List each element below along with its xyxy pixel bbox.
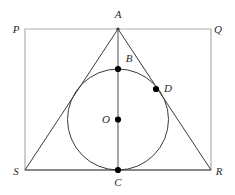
label-r: R	[215, 165, 223, 177]
label-o: O	[102, 113, 110, 125]
point-d-dot	[153, 86, 159, 92]
point-a-dot	[116, 27, 119, 30]
point-c-dot	[115, 167, 121, 173]
label-q: Q	[214, 23, 222, 35]
label-c: C	[114, 176, 122, 188]
label-b: B	[126, 52, 133, 64]
geometry-diagram: P Q R S A B D O C	[0, 0, 235, 195]
label-a: A	[114, 8, 122, 20]
label-p: P	[12, 23, 20, 35]
point-o-dot	[115, 116, 121, 122]
point-b-dot	[115, 66, 121, 72]
label-s: S	[13, 165, 19, 177]
geometry-canvas: P Q R S A B D O C	[0, 0, 235, 195]
label-d: D	[163, 82, 172, 94]
